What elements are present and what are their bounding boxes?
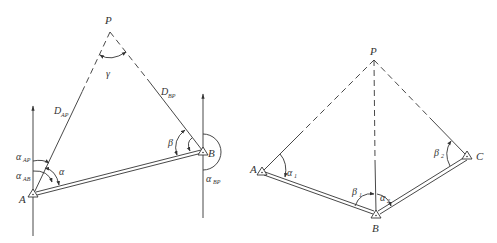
alpha2-label: α 2 — [380, 192, 390, 204]
svg-text:α: α — [206, 173, 212, 184]
svg-text:β: β — [351, 186, 357, 197]
diagram-canvas: P A B γ D AP D BP α AP α AB α β α BP — [0, 0, 497, 243]
beta2-arc — [447, 141, 451, 166]
alpha-arc — [45, 168, 59, 185]
beta-inner-arc — [188, 138, 192, 151]
alpha1-label: α 1 — [287, 167, 297, 179]
svg-text:BP: BP — [213, 179, 221, 185]
svg-text:1: 1 — [359, 192, 362, 198]
point-a-label: A — [18, 193, 26, 205]
svg-text:BP: BP — [168, 93, 176, 99]
svg-text:2: 2 — [387, 198, 390, 204]
gamma-arc — [100, 52, 126, 58]
svg-text:α: α — [16, 170, 22, 181]
beta-arc — [176, 130, 185, 155]
alpha-label: α — [59, 166, 65, 177]
point-c-label: C — [476, 150, 484, 162]
svg-text:α: α — [380, 192, 386, 203]
line-bp-solid — [148, 80, 202, 150]
alpha1-arc — [280, 154, 286, 177]
d-ap-label: D AP — [53, 105, 69, 118]
station-a-triangle-icon — [28, 189, 38, 197]
beta-label: β — [167, 137, 173, 148]
line-pc-dashed — [374, 60, 430, 118]
left-figure: P A B γ D AP D BP α AP α AB α β α BP — [16, 14, 221, 236]
point-b-label: B — [208, 147, 215, 159]
line-pa-dashed — [302, 60, 374, 132]
line-bp-dashed — [110, 32, 148, 80]
station-b-triangle-icon — [198, 147, 208, 155]
point-p-label: P — [369, 45, 377, 57]
line-ap-dashed — [82, 32, 110, 92]
d-bp-label: D BP — [160, 86, 176, 99]
point-b-label: B — [372, 222, 379, 234]
point-p-label: P — [104, 14, 112, 26]
alpha-ab-label: α AB — [16, 170, 31, 182]
gamma-label: γ — [106, 68, 111, 79]
alpha-ab-arc — [33, 171, 52, 182]
baseline-bc-bottom — [380, 160, 467, 214]
line-pb-solid — [375, 160, 376, 212]
beta1-arc — [355, 194, 374, 206]
svg-text:AP: AP — [22, 157, 31, 163]
svg-text:1: 1 — [294, 173, 297, 179]
beta1-label: β 1 — [351, 186, 362, 198]
beta2-label: β 2 — [433, 147, 444, 159]
svg-text:α: α — [16, 151, 22, 162]
point-a-label: A — [249, 163, 257, 175]
svg-text:AP: AP — [60, 112, 69, 118]
right-figure: P A B C α 1 β 1 α 2 β 2 — [249, 45, 484, 234]
line-pb-dashed — [374, 60, 375, 160]
svg-text:2: 2 — [441, 153, 444, 159]
baseline-bc-top — [378, 157, 465, 211]
alpha-ap-arc — [33, 160, 49, 163]
line-pa-solid — [264, 132, 302, 170]
svg-text:β: β — [433, 147, 439, 158]
alpha-bp-label: α BP — [206, 173, 221, 185]
svg-text:α: α — [287, 167, 293, 178]
alpha-ap-label: α AP — [16, 151, 31, 163]
baseline-ab-top — [265, 172, 374, 211]
svg-text:AB: AB — [22, 176, 31, 182]
